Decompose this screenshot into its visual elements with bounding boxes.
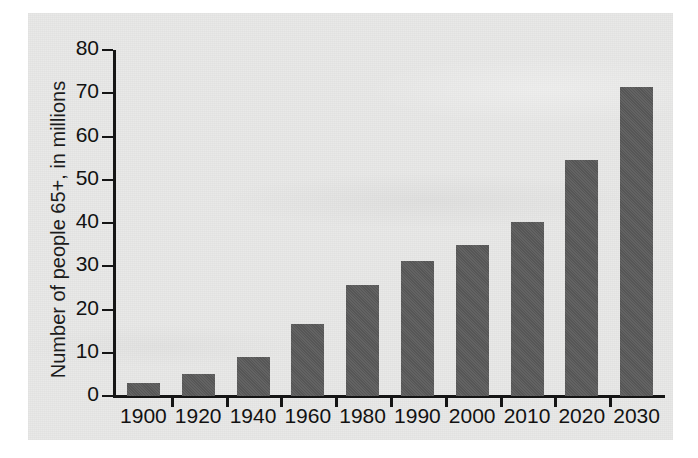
bar [127, 383, 160, 396]
x-axis-tick-label: 1990 [390, 404, 445, 428]
bar [511, 222, 544, 396]
y-axis-tick-label: 0 [87, 382, 99, 406]
y-axis-tick [102, 179, 113, 181]
x-axis-tick-label: 2010 [500, 404, 555, 428]
bar [401, 261, 434, 396]
y-axis-tick-label: 40 [76, 209, 99, 233]
y-axis-tick [102, 395, 113, 397]
chart-figure: Number of people 65+, in millions 010203… [0, 0, 698, 458]
y-axis-tick-label: 20 [76, 296, 99, 320]
bar [620, 87, 653, 396]
bar [346, 285, 379, 396]
y-axis-tick-label: 60 [76, 123, 99, 147]
bar-series [116, 50, 664, 396]
x-axis-tick-label: 1900 [116, 404, 171, 428]
y-axis-tick [102, 309, 113, 311]
x-axis-tick-label: 1940 [226, 404, 281, 428]
bar [565, 160, 598, 396]
x-axis-tick-label: 2030 [609, 404, 664, 428]
y-axis-tick [102, 265, 113, 267]
bar [182, 374, 215, 396]
bar [291, 324, 324, 396]
y-axis-label: Number of people 65+, in millions [47, 65, 70, 395]
y-axis-tick [102, 136, 113, 138]
y-axis-tick [102, 352, 113, 354]
x-axis-tick-label: 1960 [280, 404, 335, 428]
y-axis-tick-label: 80 [76, 36, 99, 60]
y-axis-tick [102, 222, 113, 224]
x-axis-tick-label: 2000 [445, 404, 500, 428]
y-axis-tick-label: 50 [76, 166, 99, 190]
x-axis-tick-label: 2020 [554, 404, 609, 428]
y-axis-tick-label: 30 [76, 252, 99, 276]
bar [237, 357, 270, 396]
y-axis-tick [102, 49, 113, 51]
x-axis-tick-label: 1980 [335, 404, 390, 428]
bar [456, 245, 489, 396]
y-axis-tick-label: 10 [76, 339, 99, 363]
y-axis-tick-label: 70 [76, 79, 99, 103]
y-axis-tick [102, 92, 113, 94]
x-axis-tick-label: 1920 [171, 404, 226, 428]
